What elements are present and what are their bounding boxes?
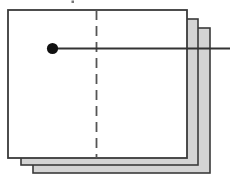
front-panel <box>8 10 187 158</box>
data-point-dot <box>47 43 58 54</box>
layered-panels-diagram <box>0 0 230 185</box>
top-speck-artifact <box>72 1 75 4</box>
figure-container <box>0 0 230 185</box>
